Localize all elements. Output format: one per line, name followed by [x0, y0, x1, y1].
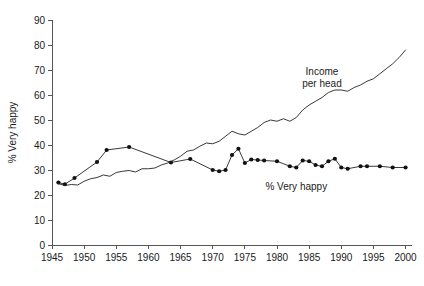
x-tick-label: 1960: [137, 252, 160, 263]
y-tick-label: 60: [34, 90, 46, 101]
x-tick-label: 1990: [330, 252, 353, 263]
x-tick-label: 1975: [234, 252, 257, 263]
data-point-marker: [391, 165, 395, 169]
chart-plot: 0102030405060708090194519501955196019651…: [0, 0, 424, 286]
data-point-marker: [307, 159, 311, 163]
data-point-marker: [403, 165, 407, 169]
data-point-marker: [230, 153, 234, 157]
x-tick-label: 1955: [105, 252, 128, 263]
y-tick-label: 40: [34, 140, 46, 151]
data-point-marker: [333, 157, 337, 161]
data-point-marker: [313, 163, 317, 167]
x-tick-label: 1985: [298, 252, 321, 263]
y-tick-label: 0: [39, 240, 45, 251]
data-point-marker: [105, 148, 109, 152]
x-tick-label: 1970: [202, 252, 225, 263]
data-point-marker: [95, 160, 99, 164]
y-tick-label: 80: [34, 40, 46, 51]
data-point-marker: [358, 164, 362, 168]
data-point-marker: [275, 159, 279, 163]
y-tick-label: 90: [34, 15, 46, 26]
data-point-marker: [127, 145, 131, 149]
series-line-very-happy: [58, 147, 405, 184]
data-point-marker: [301, 158, 305, 162]
series-annotation-label: Income: [306, 66, 339, 77]
data-point-marker: [365, 164, 369, 168]
labels-group: 0102030405060708090194519501955196019651…: [7, 15, 417, 264]
axes-group: [48, 20, 412, 249]
y-tick-label: 50: [34, 115, 46, 126]
data-point-marker: [188, 157, 192, 161]
y-tick-label: 30: [34, 165, 46, 176]
series-annotation-label: % Very happy: [265, 181, 327, 192]
data-point-marker: [378, 164, 382, 168]
x-tick-label: 1945: [41, 252, 64, 263]
x-tick-label: 1980: [266, 252, 289, 263]
data-point-marker: [320, 164, 324, 168]
data-point-marker: [236, 147, 240, 151]
x-tick-label: 1995: [362, 252, 385, 263]
data-point-marker: [223, 168, 227, 172]
series-group: [56, 50, 407, 186]
x-tick-label: 1965: [169, 252, 192, 263]
data-point-marker: [262, 158, 266, 162]
y-axis-title: % Very happy: [7, 102, 18, 164]
data-point-marker: [211, 168, 215, 172]
data-point-marker: [346, 167, 350, 171]
data-point-marker: [243, 161, 247, 165]
series-annotation-label: per head: [302, 78, 341, 89]
data-point-marker: [339, 165, 343, 169]
data-point-marker: [256, 158, 260, 162]
chart-container: 0102030405060708090194519501955196019651…: [0, 0, 424, 286]
data-point-marker: [249, 157, 253, 161]
series-line-income-per-head: [58, 50, 405, 186]
data-point-marker: [294, 165, 298, 169]
x-tick-label: 1950: [73, 252, 96, 263]
data-point-marker: [72, 176, 76, 180]
x-tick-label: 2000: [394, 252, 417, 263]
y-tick-label: 70: [34, 65, 46, 76]
y-tick-label: 10: [34, 215, 46, 226]
data-point-marker: [326, 159, 330, 163]
data-point-marker: [217, 169, 221, 173]
data-point-marker: [288, 164, 292, 168]
y-tick-label: 20: [34, 190, 46, 201]
